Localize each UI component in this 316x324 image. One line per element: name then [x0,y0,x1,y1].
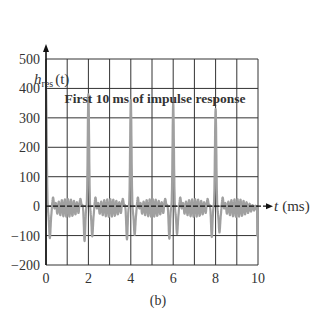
figure-caption: (b) [150,293,167,309]
y-tick-label: −200 [11,258,40,273]
y-tick-label: 500 [19,52,40,67]
x-tick-label: 2 [85,271,92,286]
y-tick-label: 100 [19,170,40,185]
y-axis-label: hres(t) [34,71,69,89]
x-tick-label: 6 [170,271,177,286]
axes [43,44,273,265]
x-tick-label: 10 [251,271,265,286]
y-tick-label: 200 [19,140,40,155]
y-tick-label: 0 [33,199,40,214]
x-tick-label: 4 [127,271,134,286]
x-tick-label: 0 [43,271,50,286]
x-tick-label: 8 [212,271,219,286]
grid-lines [46,59,258,265]
y-tick-label: 300 [19,111,40,126]
chart-title: First 10 ms of impulse response [65,91,246,106]
impulse-response-chart: 02468105004003002001000−100−200 First 10… [0,0,316,324]
x-axis-label: t(ms) [274,198,310,215]
y-tick-label: −100 [11,229,40,244]
